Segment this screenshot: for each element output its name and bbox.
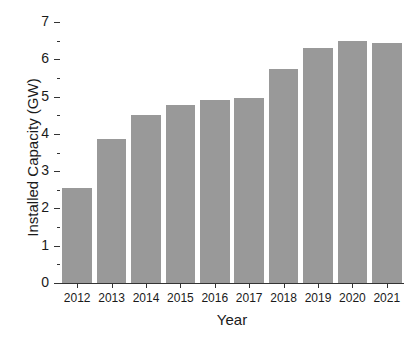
y-axis-tick-label: 3 [41,162,49,178]
bar [166,105,196,283]
x-axis-tick-label: 2020 [339,291,366,305]
plot-area [60,22,404,283]
y-axis-tick-label: 5 [41,88,49,104]
x-axis-tick-label: 2016 [201,291,228,305]
bar [234,98,264,283]
y-axis-tick-label: 6 [41,50,49,66]
x-axis-tick-mark [215,283,216,288]
bar [62,188,92,283]
x-axis-tick-label: 2019 [305,291,332,305]
y-axis-tick-label: 0 [41,274,49,290]
y-axis-tick-label: 1 [41,237,49,253]
x-axis-tick-label: 2013 [98,291,125,305]
bar [303,48,333,283]
y-axis-tick-mark [54,283,60,284]
bar [338,41,368,283]
x-axis-tick-label: 2015 [167,291,194,305]
x-axis-tick-mark [77,283,78,288]
x-axis-tick-label: 2012 [64,291,91,305]
y-axis-tick-label: 4 [41,125,49,141]
x-axis-tick-mark [180,283,181,288]
x-axis-tick-label: 2017 [236,291,263,305]
y-axis-tick-label: 2 [41,199,49,215]
bar [372,43,402,283]
x-axis-tick-mark [284,283,285,288]
bar [200,100,230,283]
bar [269,69,299,283]
x-axis-tick-mark [387,283,388,288]
bar-chart: Installed Capacity (GW) 01234567 2012201… [0,0,408,340]
x-axis-tick-label: 2021 [373,291,400,305]
x-axis-tick-mark [249,283,250,288]
bar [97,139,127,283]
x-axis-tick-label: 2014 [133,291,160,305]
x-axis-tick-mark [352,283,353,288]
bar [131,115,161,283]
x-axis-tick-label: 2018 [270,291,297,305]
y-axis-tick-label: 7 [41,13,49,29]
x-axis-tick-mark [318,283,319,288]
x-axis-tick-mark [112,283,113,288]
x-axis-tick-mark [146,283,147,288]
x-axis-title: Year [60,311,404,328]
